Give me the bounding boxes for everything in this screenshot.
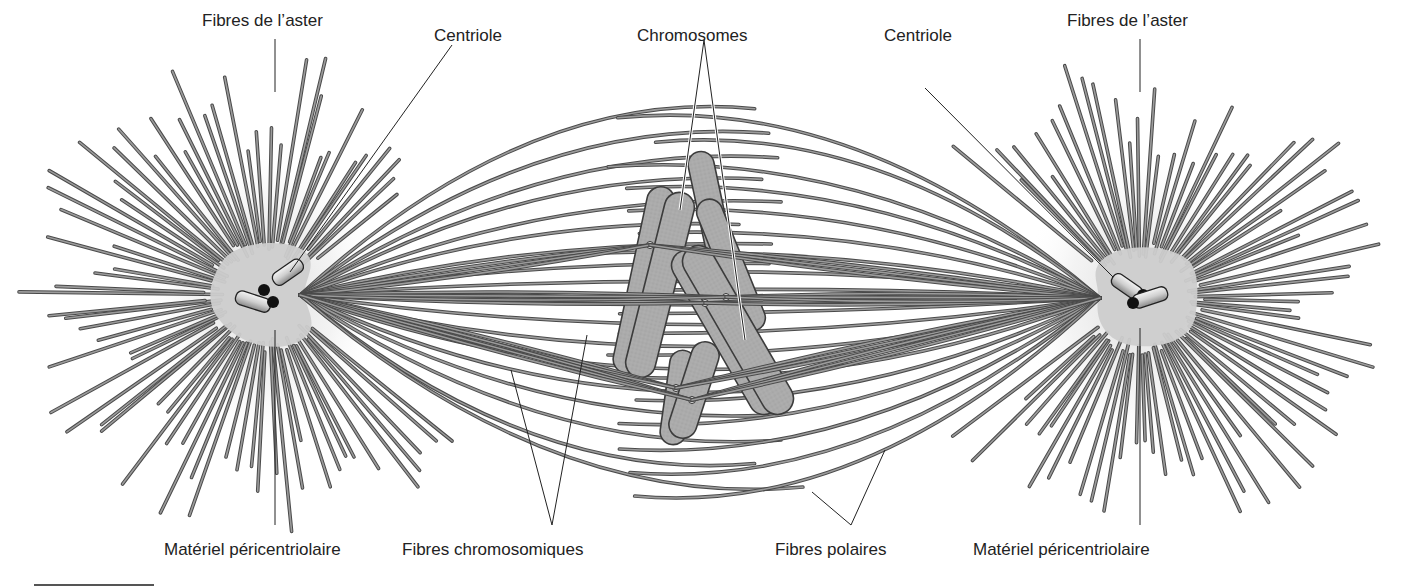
label-pcm-left: Matériel péricentriolaire bbox=[164, 540, 341, 560]
leader-polar-fibers bbox=[812, 450, 885, 525]
label-centriole-right: Centriole bbox=[884, 26, 952, 46]
scale-bar bbox=[34, 584, 154, 586]
label-chromosomes: Chromosomes bbox=[637, 26, 748, 46]
label-pcm-right: Matériel péricentriolaire bbox=[973, 540, 1150, 560]
label-aster-fibers-left: Fibres de l’aster bbox=[202, 11, 323, 31]
label-chromosomal-fibers: Fibres chromosomiques bbox=[402, 540, 583, 560]
mitotic-spindle-diagram bbox=[0, 0, 1405, 587]
label-centriole-left: Centriole bbox=[434, 26, 502, 46]
label-aster-fibers-right: Fibres de l’aster bbox=[1067, 11, 1188, 31]
label-polar-fibers: Fibres polaires bbox=[775, 540, 887, 560]
